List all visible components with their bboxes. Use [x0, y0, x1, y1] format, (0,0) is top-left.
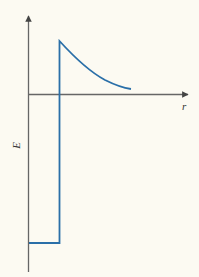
x-axis-label: r [182, 101, 186, 112]
energy-diagram [0, 0, 199, 277]
y-axis-label: E [11, 142, 22, 149]
energy-curve [29, 41, 131, 243]
